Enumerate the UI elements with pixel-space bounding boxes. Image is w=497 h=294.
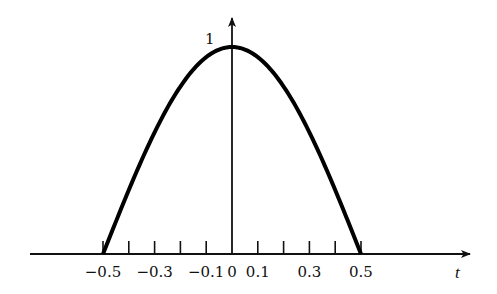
- x-tick-labels: −0.5−0.3−0.100.10.30.5: [85, 263, 373, 281]
- x-tick-label: −0.3: [136, 263, 172, 281]
- x-axis-label: t: [455, 263, 461, 282]
- y-tick-label-1: 1: [205, 30, 215, 48]
- x-tick-label: 0.3: [297, 263, 321, 281]
- x-tick-label: −0.5: [85, 263, 121, 281]
- pulse-chart: −0.5−0.3−0.100.10.30.5 1 t: [0, 0, 497, 294]
- x-tick-label: 0: [227, 263, 237, 281]
- x-tick-label: 0.1: [246, 263, 270, 281]
- x-tick-label: −0.1: [188, 263, 224, 281]
- x-tick-label: 0.5: [349, 263, 373, 281]
